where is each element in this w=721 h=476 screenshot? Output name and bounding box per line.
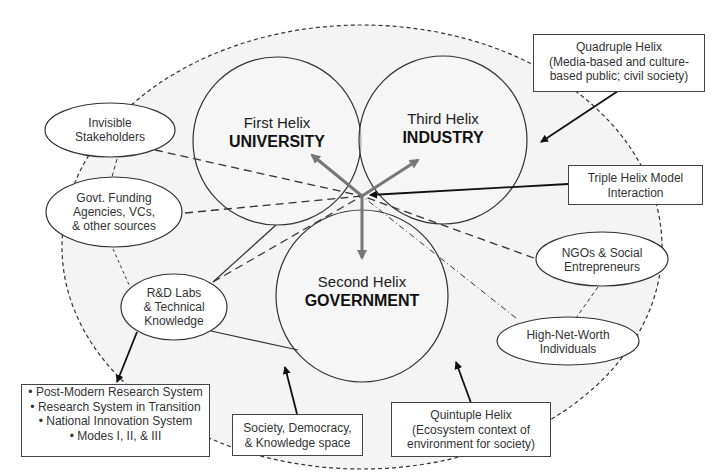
quadruple-line-2: (Media-based and culture- [534, 55, 704, 70]
invisible-line-2: Stakeholders [50, 130, 170, 144]
rnd-line-1: R&D Labs [124, 286, 224, 300]
ngos-label: NGOs & Social Entrepreneurs [542, 246, 662, 274]
quintuple-helix-box: Quintuple Helix (Ecosystem context of en… [391, 402, 551, 457]
industry-main: INDUSTRY [383, 128, 503, 147]
society-line-2: & Knowledge space [233, 436, 362, 451]
research-item-4: • Modes I, II, & III [22, 429, 209, 444]
research-item-1: • Post-Modern Research System [22, 385, 209, 400]
triple-line-2: Interaction [569, 186, 702, 201]
industry-sub: Third Helix [383, 110, 503, 128]
industry-label: Third Helix INDUSTRY [383, 110, 503, 147]
quintuple-line-1: Quintuple Helix [392, 408, 550, 423]
ngos-line-2: Entrepreneurs [542, 260, 662, 274]
quintuple-line-3: environment for society) [392, 437, 550, 452]
invisible-line-1: Invisible [50, 116, 170, 130]
funding-line-3: & other sources [54, 219, 174, 233]
invisible-stakeholders-label: Invisible Stakeholders [50, 116, 170, 144]
rnd-line-3: Knowledge [124, 314, 224, 328]
university-main: UNIVERSITY [217, 132, 337, 151]
government-label: Second Helix GOVERNMENT [292, 273, 432, 310]
ngos-line-1: NGOs & Social [542, 246, 662, 260]
hnwi-line-2: Individuals [508, 342, 628, 356]
quadruple-helix-box: Quadruple Helix (Media-based and culture… [533, 34, 705, 92]
university-label: First Helix UNIVERSITY [217, 114, 337, 151]
hnwi-label: High-Net-Worth Individuals [508, 328, 628, 356]
research-item-3: • National Innovation System [22, 414, 209, 429]
rnd-labs-label: R&D Labs & Technical Knowledge [124, 286, 224, 328]
society-line-1: Society, Democracy, [233, 421, 362, 436]
hnwi-line-1: High-Net-Worth [508, 328, 628, 342]
triple-helix-box: Triple Helix Model Interaction [568, 165, 703, 205]
quintuple-line-2: (Ecosystem context of [392, 423, 550, 438]
funding-line-2: Agencies, VCs, [54, 205, 174, 219]
research-item-2: • Research System in Transition [22, 400, 209, 415]
government-sub: Second Helix [292, 273, 432, 291]
funding-agencies-label: Govt. Funding Agencies, VCs, & other sou… [54, 191, 174, 233]
triple-line-1: Triple Helix Model [569, 171, 702, 186]
society-democracy-box: Society, Democracy, & Knowledge space [232, 414, 363, 456]
rnd-line-2: & Technical [124, 300, 224, 314]
quadruple-line-3: based public; civil society) [534, 69, 704, 84]
funding-line-1: Govt. Funding [54, 191, 174, 205]
government-main: GOVERNMENT [292, 291, 432, 310]
research-systems-box: • Post-Modern Research System • Research… [21, 384, 210, 457]
quadruple-line-1: Quadruple Helix [534, 40, 704, 55]
university-sub: First Helix [217, 114, 337, 132]
